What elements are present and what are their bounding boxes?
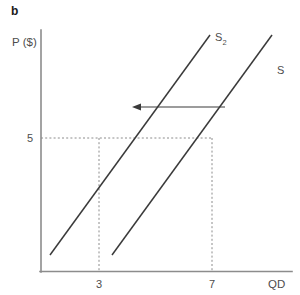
- curve-label-s2: S: [215, 31, 222, 43]
- supply-curve-s: [112, 35, 272, 255]
- curve-label-s2-subscript: 2: [223, 38, 227, 47]
- x-tick-label-3: 3: [96, 278, 102, 290]
- y-tick-label-5: 5: [27, 132, 33, 144]
- supply-curve-s2: [50, 35, 210, 255]
- x-axis-label: QD: [268, 278, 285, 290]
- arrow-head-icon: [132, 104, 141, 111]
- supply-shift-figure: b P ($) QD 5 3 7 S 2 S: [0, 0, 300, 295]
- supply-shift-chart: P ($) QD 5 3 7 S 2 S: [0, 0, 300, 295]
- x-tick-label-7: 7: [209, 278, 215, 290]
- y-axis-label: P ($): [12, 36, 37, 48]
- curve-label-s: S: [277, 64, 284, 76]
